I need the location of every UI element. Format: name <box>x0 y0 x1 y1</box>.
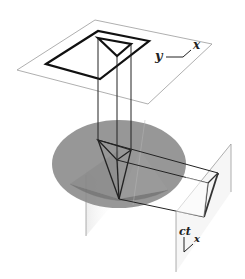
axis-label-y: y <box>154 48 164 63</box>
light-cone-diagram: y x ct x <box>0 0 245 279</box>
axis-label-x-side: x <box>193 233 201 244</box>
axis-label-x-top: x <box>192 38 201 52</box>
ct-x-box-face <box>176 177 208 217</box>
x-y-plane <box>17 20 212 104</box>
axis-label-ct: ct <box>179 225 191 238</box>
